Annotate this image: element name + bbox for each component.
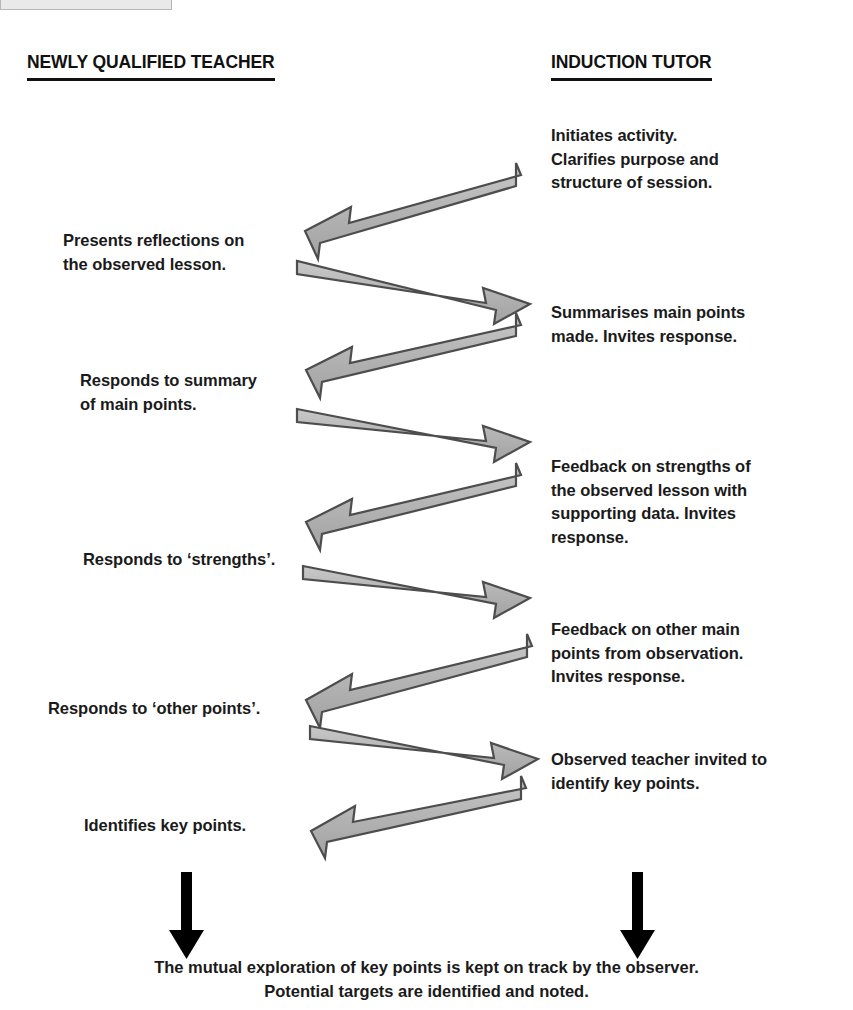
- step-identifies-key-points: Identifies key points.: [84, 814, 246, 838]
- column-heading-induction-tutor: INDUCTION TUTOR: [551, 52, 712, 81]
- arrow-right-to-left-1: [305, 163, 521, 259]
- arrow-right-to-left-5: [306, 463, 521, 550]
- arrow-right-to-left-3: [306, 313, 521, 398]
- step-observed-teacher-invited: Observed teacher invited to identify key…: [551, 748, 767, 795]
- down-arrow-right: [620, 872, 655, 959]
- step-responds-to-strengths: Responds to ‘strengths’.: [83, 548, 275, 572]
- step-presents-reflections: Presents reflections on the observed les…: [63, 229, 244, 276]
- step-responds-to-summary: Responds to summary of main points.: [80, 369, 257, 416]
- arrow-left-to-right-4: [297, 409, 530, 462]
- step-feedback-on-strengths: Feedback on strengths of the observed le…: [551, 455, 751, 549]
- step-initiates-activity: Initiates activity. Clarifies purpose an…: [551, 124, 719, 195]
- arrow-right-to-left-7: [306, 634, 532, 728]
- flow-diagram: IN THE INDUCTION PERIOD NEWLY QUALIFIED …: [0, 0, 853, 1010]
- arrow-left-to-right-8: [310, 726, 538, 779]
- arrow-left-to-right-6: [303, 566, 530, 618]
- column-heading-newly-qualified-teacher: NEWLY QUALIFIED TEACHER: [27, 52, 275, 81]
- step-responds-to-other-points: Responds to ‘other points’.: [48, 697, 260, 721]
- arrow-left-to-right-2: [297, 261, 530, 324]
- step-feedback-on-other-points: Feedback on other main points from obser…: [551, 618, 743, 689]
- top-banner: IN THE INDUCTION PERIOD: [0, 0, 172, 10]
- down-arrow-left: [169, 872, 204, 959]
- step-summarises-main-points: Summarises main points made. Invites res…: [551, 301, 745, 348]
- arrow-right-to-left-9: [311, 776, 526, 858]
- summary-statement: The mutual exploration of key points is …: [0, 955, 853, 1003]
- top-banner-label: IN THE INDUCTION PERIOD: [6, 0, 167, 1]
